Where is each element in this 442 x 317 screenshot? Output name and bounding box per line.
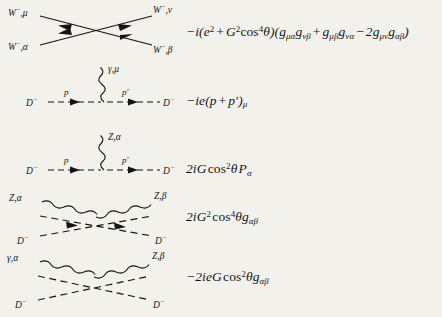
expression-z-d-d-vertex: 2iG cos2θ Pα [186, 161, 252, 178]
momentum-label-p: p [63, 155, 69, 165]
arrowhead-bottom-left-in [58, 28, 72, 35]
diagram-zz-dd-vertex: Z,α Z,β D− D− [0, 188, 190, 250]
boson-label-photon: γ,μ [108, 64, 119, 74]
z-alpha-wavy-line [42, 201, 97, 215]
arrowhead-top-right [118, 24, 132, 31]
gamma-alpha-wavy-line [40, 261, 95, 275]
momentum-label-p-prime: p′ [121, 87, 130, 97]
leg-label-bottom-left: W−,α [8, 40, 29, 52]
expression-four-w-vertex: −i(e2 + G2cos4θ)(gμαgνβ + gμβgνα − 2gμνg… [186, 24, 409, 41]
leg-label-top-right-z: Z,β [152, 251, 165, 261]
leg-label-bottom-right-d: D− [154, 234, 166, 246]
diagram-photon-d-d-vertex: γ,μ D− D− p p′ [0, 60, 190, 112]
momentum-arrow-p [70, 99, 80, 106]
diagram-z-d-d-vertex: Z,α D− D− p p′ [0, 128, 190, 180]
z-beta-wavy-line [96, 205, 151, 219]
diagram-gamma-z-dd-vertex: γ,α Z,β D− D− [0, 248, 190, 312]
arrowhead-d-right [114, 223, 126, 230]
leg-label-left-d: D− [25, 96, 37, 108]
leg-label-left-d: D− [25, 164, 37, 176]
momentum-label-p: p [63, 87, 69, 97]
leg-label-top-left-gamma: γ,α [7, 253, 19, 263]
leg-label-top-right: W−,ν [153, 3, 173, 15]
momentum-arrow-p-prime [128, 167, 138, 174]
diagram-four-w-vertex: W−,μ W−,ν W−,α W−,β [0, 0, 190, 58]
momentum-arrow-p-prime [128, 99, 138, 106]
expression-photon-d-d-vertex: −ie(p + p′)μ [186, 93, 247, 109]
leg-label-top-left: W−,μ [8, 6, 28, 18]
leg-label-top-left-z: Z,α [9, 193, 23, 203]
leg-label-bottom-left-d: D− [16, 234, 28, 246]
leg-label-bottom-right-d: D− [152, 298, 164, 310]
leg-label-bottom-right: W−,β [153, 43, 173, 55]
z-wavy-line [99, 136, 106, 171]
leg-label-right-d: D− [162, 96, 174, 108]
momentum-label-p-prime: p′ [121, 155, 130, 165]
feynman-rules-sheet: W−,μ W−,ν W−,α W−,β −i(e2 + G2cos4θ)(gμα… [0, 0, 442, 317]
leg-label-right-d: D− [162, 164, 174, 176]
leg-label-bottom-left-d: D− [14, 298, 26, 310]
expression-gamma-z-dd-vertex: −2ieG cos2θgαβ [186, 269, 269, 286]
photon-wavy-line [99, 68, 106, 103]
expression-zz-dd-vertex: 2iG2 cos4θgαβ [186, 209, 258, 226]
momentum-arrow-p [70, 167, 80, 174]
z-beta-wavy-line [94, 265, 149, 279]
leg-label-top-right-z: Z,β [154, 191, 167, 201]
boson-label-z: Z,α [108, 132, 122, 142]
